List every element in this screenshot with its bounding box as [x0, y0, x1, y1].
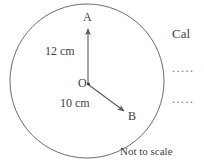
point-label-a: A: [83, 11, 92, 23]
answer-dotted-line[interactable]: .....: [172, 94, 204, 104]
circle-diagram-graphic: [0, 0, 204, 166]
figure-canvas: A O B 12 cm 10 cm Not to scale Cal .....…: [0, 0, 204, 166]
point-label-o: O: [78, 77, 87, 89]
not-to-scale-caption: Not to scale: [120, 146, 173, 157]
circle-outline: [10, 4, 164, 158]
point-label-b: B: [128, 110, 136, 122]
radius-line-ob: [89, 85, 124, 111]
question-heading-text: Cal: [172, 27, 190, 40]
answer-dotted-line[interactable]: .....: [172, 63, 204, 73]
measurement-label-ob: 10 cm: [60, 97, 90, 109]
center-point-dot: [87, 82, 90, 85]
measurement-label-oa: 12 cm: [45, 45, 75, 57]
